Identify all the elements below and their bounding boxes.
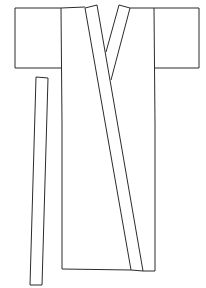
kimono-drawing — [0, 0, 206, 288]
collar-left-strip-inner — [85, 8, 131, 270]
body-right-edge — [130, 8, 155, 271]
left-sleeve — [15, 8, 61, 68]
body-hem — [131, 270, 143, 271]
collar-left-strip — [85, 5, 143, 271]
collar-right-strip — [106, 5, 130, 80]
belt-strip — [30, 77, 48, 285]
right-sleeve — [154, 8, 199, 68]
kimono-figure — [0, 0, 206, 288]
